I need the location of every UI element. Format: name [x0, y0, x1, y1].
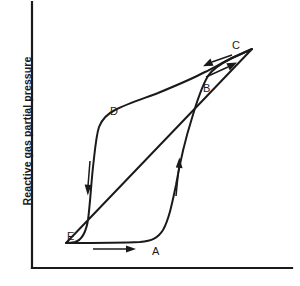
hysteresis-figure: Reactive gas partial pressure C B D E A — [0, 0, 300, 286]
y-axis-title: Reactive gas partial pressure — [21, 26, 33, 236]
point-label-a: A — [152, 246, 160, 257]
point-label-e: E — [67, 231, 75, 242]
point-label-b: B — [203, 83, 211, 94]
point-label-c: C — [232, 40, 240, 51]
bottom-forward-arrow — [93, 246, 136, 253]
return-branch-curve — [66, 49, 252, 243]
plot-canvas — [0, 0, 300, 286]
point-label-d: D — [110, 106, 118, 117]
